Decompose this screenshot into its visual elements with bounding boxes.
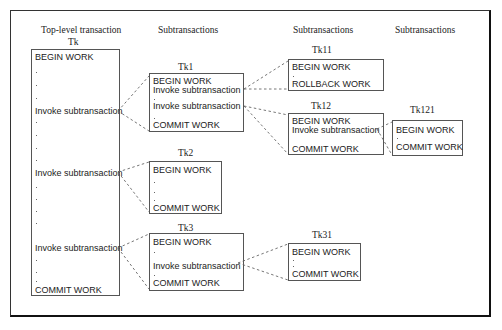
transaction-label-tk1: Tk1 bbox=[178, 62, 193, 72]
transaction-box-tk31: BEGIN WORK COMMIT WORK bbox=[288, 243, 361, 281]
tk31-begin-work: BEGIN WORK bbox=[292, 247, 351, 257]
transaction-box-tk12: BEGIN WORK Invoke subtransaction COMMIT … bbox=[288, 113, 384, 155]
tk2-begin-work: BEGIN WORK bbox=[153, 165, 212, 175]
transaction-box-tk2: BEGIN WORK COMMIT WORK bbox=[149, 161, 222, 214]
transaction-label-tk11: Tk11 bbox=[312, 45, 332, 55]
tk-invoke-subtransaction-1: Invoke subtransaction bbox=[35, 106, 123, 116]
transaction-label-tk2: Tk2 bbox=[178, 148, 193, 158]
tk1-invoke-subtransaction-2: Invoke subtransaction bbox=[153, 101, 241, 111]
tk3-invoke-subtransaction: Invoke subtransaction bbox=[153, 261, 241, 271]
transaction-box-tk3: BEGIN WORK Invoke subtransaction COMMIT … bbox=[149, 233, 244, 291]
transaction-label-tk: Tk bbox=[68, 37, 79, 47]
column-header-subtransactions-1: Subtransactions bbox=[158, 25, 218, 35]
tk-invoke-subtransaction-2: Invoke subtransaction bbox=[35, 168, 123, 178]
tk-begin-work: BEGIN WORK bbox=[35, 52, 94, 62]
tk3-begin-work: BEGIN WORK bbox=[153, 237, 212, 247]
tk31-commit-work: COMMIT WORK bbox=[292, 269, 359, 279]
transaction-box-tk121: BEGIN WORK COMMIT WORK bbox=[392, 120, 463, 156]
tk1-commit-work: COMMIT WORK bbox=[153, 120, 220, 130]
transaction-box-tk: BEGIN WORK Invoke subtransaction Invoke … bbox=[31, 49, 120, 296]
tk1-invoke-subtransaction-1: Invoke subtransaction bbox=[153, 85, 241, 95]
tk12-invoke-subtransaction: Invoke subtransaction bbox=[292, 125, 380, 135]
transaction-box-tk1: BEGIN WORK Invoke subtransaction Invoke … bbox=[149, 73, 244, 132]
tk11-begin-work: BEGIN WORK bbox=[292, 62, 351, 72]
transaction-label-tk3: Tk3 bbox=[178, 223, 193, 233]
column-header-subtransactions-2: Subtransactions bbox=[293, 25, 353, 35]
transaction-box-tk11: BEGIN WORK ROLLBACK WORK bbox=[288, 59, 384, 91]
tk121-commit-work: COMMIT WORK bbox=[396, 142, 463, 152]
tk2-commit-work: COMMIT WORK bbox=[153, 203, 220, 213]
tk121-begin-work: BEGIN WORK bbox=[396, 125, 455, 135]
tk3-commit-work: COMMIT WORK bbox=[153, 278, 220, 288]
tk-invoke-subtransaction-3: Invoke subtransaction bbox=[35, 243, 123, 253]
transaction-label-tk31: Tk31 bbox=[312, 230, 332, 240]
tk12-commit-work: COMMIT WORK bbox=[292, 144, 359, 154]
column-header-subtransactions-3: Subtransactions bbox=[395, 25, 455, 35]
tk11-rollback-work: ROLLBACK WORK bbox=[292, 79, 371, 89]
column-header-top-level: Top-level transaction bbox=[41, 25, 121, 35]
transaction-label-tk121: Tk121 bbox=[410, 105, 435, 115]
transaction-label-tk12: Tk12 bbox=[311, 101, 331, 111]
tk-commit-work: COMMIT WORK bbox=[35, 285, 102, 295]
